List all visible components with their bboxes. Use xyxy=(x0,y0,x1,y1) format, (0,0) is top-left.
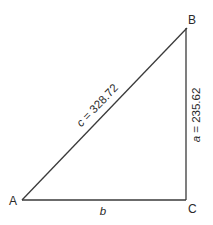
hypotenuse-value: 328.72 xyxy=(87,82,120,116)
vertical-value: 235.62 xyxy=(190,88,202,123)
hypotenuse-edge-ab xyxy=(22,28,187,200)
vertical-eq: = xyxy=(190,123,202,136)
vertex-label-b: B xyxy=(188,13,196,27)
horizontal-side-label: b xyxy=(100,205,107,217)
vertical-side-label-text: a = 235.62 xyxy=(190,88,202,143)
right-triangle-diagram: A B C c = 328.72 a = 235.62 b xyxy=(0,0,213,225)
vertex-label-a: A xyxy=(9,194,17,208)
triangle-canvas: A B C c = 328.72 a = 235.62 b xyxy=(0,0,213,225)
vertical-side-label: a = 235.62 xyxy=(190,88,202,143)
vertex-label-c: C xyxy=(188,202,197,216)
